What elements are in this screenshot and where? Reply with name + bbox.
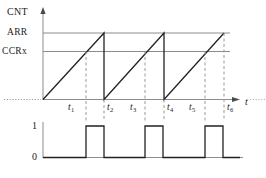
cnt-sawtooth-waveform <box>43 33 224 100</box>
cnt-axis-label: CNT <box>7 6 28 17</box>
pwm-timing-figure: CNT ARR CCRx t t1 t2 t3 t4 t5 t6 1 0 <box>0 0 266 178</box>
cnt-axis <box>40 7 45 100</box>
output-high-label: 1 <box>32 120 37 131</box>
tick-sub: 5 <box>192 106 196 113</box>
pwm-output-waveform <box>43 126 240 158</box>
ccrx-level-label: CCRx <box>2 46 27 56</box>
tick-sub: 6 <box>230 106 234 113</box>
output-low-label: 0 <box>32 151 37 162</box>
tick-label-t2: t2 <box>107 102 114 112</box>
tick-label-t1: t1 <box>68 102 75 112</box>
tick-sub: 3 <box>133 106 137 113</box>
tick-sub: 2 <box>110 106 114 113</box>
tick-label-t5: t5 <box>189 102 196 112</box>
tick-sub: 1 <box>71 106 75 113</box>
tick-label-t6: t6 <box>227 102 234 112</box>
arr-level-label: ARR <box>7 27 27 37</box>
time-axis-label: t <box>245 96 248 107</box>
timing-diagram-canvas <box>0 0 266 178</box>
output-axis <box>43 122 243 158</box>
tick-label-t4: t4 <box>167 102 174 112</box>
tick-sub: 4 <box>170 106 174 113</box>
tick-label-t3: t3 <box>130 102 137 112</box>
